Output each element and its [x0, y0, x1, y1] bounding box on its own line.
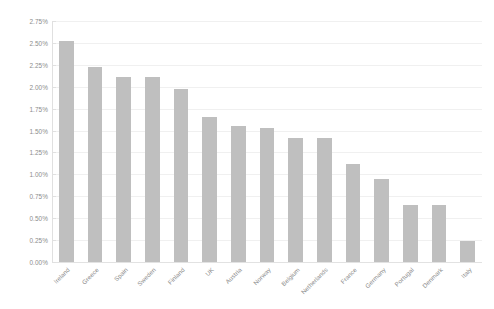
x-axis-label-slot: Greece [81, 264, 110, 309]
y-axis-tick [52, 43, 56, 44]
bar[interactable] [88, 67, 103, 262]
y-axis-tick-label: 0.50% [6, 215, 48, 222]
bar-slot [81, 21, 110, 262]
y-axis-tick [52, 65, 56, 66]
x-axis-label-slot: Sweden [138, 264, 167, 309]
y-axis-tick-label: 1.50% [6, 127, 48, 134]
y-axis-tick [52, 262, 56, 263]
bar-slot [109, 21, 138, 262]
x-axis-tick-label: Italy [459, 266, 472, 279]
x-axis-label-slot: Norway [253, 264, 282, 309]
y-axis-tick [52, 240, 56, 241]
x-axis-label-slot: Finland [167, 264, 196, 309]
bar-slot [167, 21, 196, 262]
bar-slot [339, 21, 368, 262]
y-axis-labels: 2.75%2.50%2.25%2.00%1.75%1.50%1.25%1.00%… [0, 0, 48, 309]
x-axis-label-slot: UK [195, 264, 224, 309]
gridline [52, 262, 482, 263]
bar[interactable] [317, 138, 332, 262]
bar-slot [453, 21, 482, 262]
x-axis-label-slot: Austria [224, 264, 253, 309]
y-axis-tick [52, 21, 56, 22]
y-axis-tick-label: 2.25% [6, 61, 48, 68]
x-axis-tick-label: Portugal [393, 266, 415, 288]
y-axis-tick-label: 1.00% [6, 171, 48, 178]
x-axis-label-slot: Spain [109, 264, 138, 309]
x-axis-label-slot: Germany [367, 264, 396, 309]
bar[interactable] [374, 179, 389, 262]
y-axis-tick-label: 1.25% [6, 149, 48, 156]
x-axis-labels: IrelandGreeceSpainSwedenFinlandUKAustria… [52, 264, 482, 309]
y-axis-tick-label: 2.00% [6, 83, 48, 90]
bar-chart: 2.75%2.50%2.25%2.00%1.75%1.50%1.25%1.00%… [0, 0, 494, 309]
x-axis-tick-label: Sweden [136, 266, 157, 287]
x-axis-label-slot: Italy [453, 264, 482, 309]
x-axis-tick-label: Greece [80, 266, 100, 286]
bar-slot [253, 21, 282, 262]
bar[interactable] [432, 205, 447, 262]
y-axis-tick [52, 152, 56, 153]
bar[interactable] [260, 128, 275, 262]
bar-slot [281, 21, 310, 262]
x-axis-tick-label: Norway [252, 266, 272, 286]
bar[interactable] [231, 126, 246, 262]
plot-area [52, 21, 482, 262]
x-axis-label-slot: France [339, 264, 368, 309]
x-axis-label-slot: Denmark [425, 264, 454, 309]
x-axis-tick-label: France [339, 266, 358, 285]
x-axis-tick-label: Ireland [52, 266, 71, 285]
y-axis-tick [52, 218, 56, 219]
bar-slot [396, 21, 425, 262]
bar[interactable] [145, 77, 160, 262]
x-axis-tick-label: Denmark [421, 266, 444, 289]
bar[interactable] [174, 89, 189, 262]
x-axis-label-slot: Netherlands [310, 264, 339, 309]
y-axis-tick [52, 131, 56, 132]
bar[interactable] [116, 77, 131, 262]
y-axis-tick-label: 2.75% [6, 18, 48, 25]
y-axis-tick-label: 0.00% [6, 259, 48, 266]
y-axis-tick [52, 196, 56, 197]
bar[interactable] [403, 205, 418, 262]
y-axis-tick-label: 0.25% [6, 237, 48, 244]
x-axis-label-slot: Portugal [396, 264, 425, 309]
x-axis-tick-label: Germany [363, 266, 386, 289]
x-axis-tick-label: Austria [224, 266, 243, 285]
bar-slot [138, 21, 167, 262]
bar-slot [310, 21, 339, 262]
bar[interactable] [460, 241, 475, 262]
bar-slot [52, 21, 81, 262]
x-axis-tick-label: Spain [112, 266, 128, 282]
y-axis-tick-label: 1.75% [6, 105, 48, 112]
bar[interactable] [202, 117, 217, 262]
y-axis-tick [52, 87, 56, 88]
x-axis-label-slot: Ireland [52, 264, 81, 309]
x-axis-tick-label: UK [203, 266, 214, 277]
bar[interactable] [346, 164, 361, 262]
y-axis-tick-label: 2.50% [6, 39, 48, 46]
bar-slot [425, 21, 454, 262]
x-axis-tick-label: Finland [166, 266, 186, 286]
bar-slot [195, 21, 224, 262]
bar-slot [224, 21, 253, 262]
bar[interactable] [288, 138, 303, 262]
y-axis-tick [52, 109, 56, 110]
bar[interactable] [59, 41, 74, 262]
y-axis-tick [52, 174, 56, 175]
y-axis-tick-label: 0.75% [6, 193, 48, 200]
x-axis-tick-label: Belgium [279, 266, 300, 287]
bar-slot [367, 21, 396, 262]
